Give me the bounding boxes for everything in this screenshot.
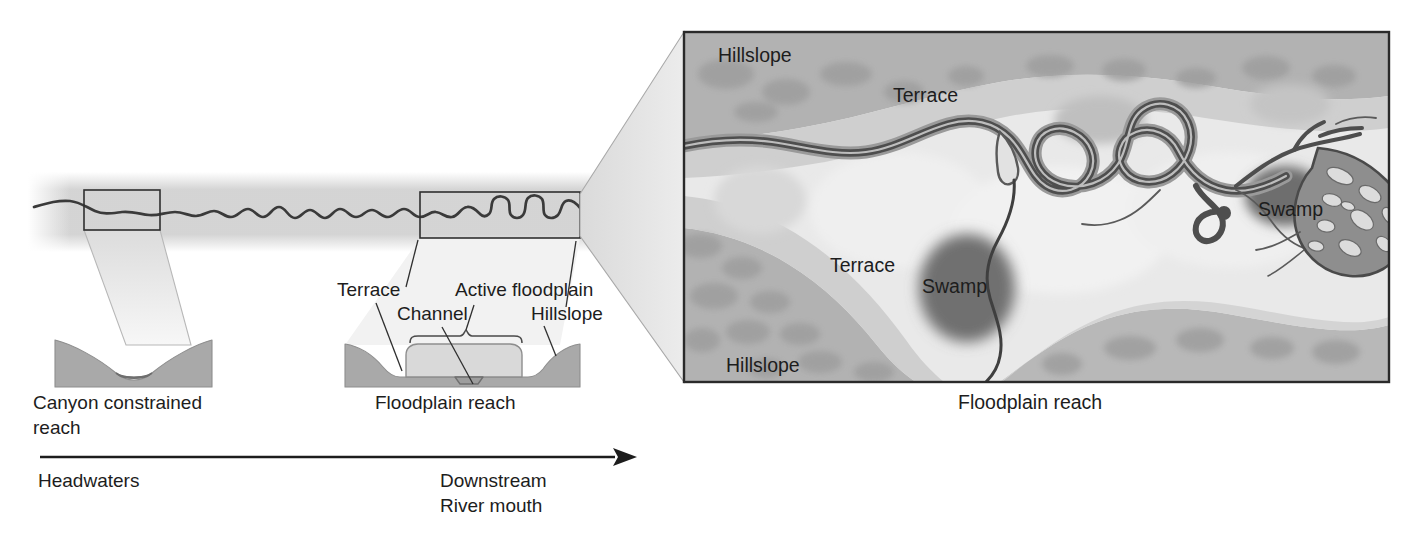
panel-label-hillslope-top: Hillslope — [718, 44, 792, 66]
downstream-axis: Headwaters Downstream River mouth — [38, 448, 637, 516]
panel-label-terrace-top: Terrace — [893, 84, 958, 106]
canyon-caption-line-1: Canyon constrained — [33, 392, 202, 413]
label-terrace-cross: Terrace — [337, 279, 400, 300]
panel-label-swamp-upper: Swamp — [1258, 198, 1323, 220]
floodplain-channel — [455, 377, 483, 384]
oxbow-terminus-bulb — [1217, 206, 1231, 220]
active-floodplain-surface — [406, 344, 522, 377]
floodplain-caption: Floodplain reach — [375, 392, 515, 413]
panel-label-terrace-lower: Terrace — [830, 254, 895, 276]
axis-label-headwaters: Headwaters — [38, 470, 139, 491]
canyon-valley-fill — [55, 340, 212, 387]
canyon-caption-line-2: reach — [33, 417, 81, 438]
panel-label-swamp-lower: Swamp — [922, 275, 987, 297]
axis-label-river-mouth: River mouth — [440, 495, 542, 516]
figure-canvas: Canyon constrained reach Terrace Chan — [0, 0, 1427, 535]
label-channel-cross: Channel — [397, 303, 468, 324]
label-hillslope-cross: Hillslope — [531, 303, 603, 324]
floodplain-detail-panel: Hillslope Terrace Terrace Hillslope Swam… — [678, 32, 1407, 413]
label-active-floodplain-cross: Active floodplain — [455, 279, 593, 300]
panel-label-hillslope-bottom: Hillslope — [726, 354, 800, 376]
detail-zoom-cone — [580, 32, 684, 382]
detail-panel-caption: Floodplain reach — [958, 391, 1102, 413]
river-reach-figure: Canyon constrained reach Terrace Chan — [0, 0, 1427, 535]
axis-label-downstream: Downstream — [440, 470, 547, 491]
canyon-cross-section — [55, 340, 212, 387]
